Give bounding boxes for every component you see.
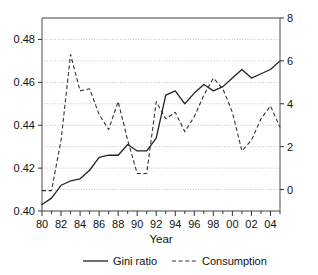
left-axis-tick-label: 0.48 <box>14 33 35 45</box>
x-axis-tick-label: 98 <box>207 218 219 230</box>
x-axis-tick-label: 00 <box>226 218 238 230</box>
x-axis-tick-label: 88 <box>112 218 124 230</box>
right-axis-tick-label: 2 <box>287 141 293 153</box>
left-axis-tick-label: 0.44 <box>14 119 35 131</box>
legend-label-consumption: Consumption <box>202 255 267 267</box>
right-axis: 02468 <box>280 12 293 196</box>
legend-label-gini: Gini ratio <box>113 255 157 267</box>
x-axis-tick-label: 86 <box>93 218 105 230</box>
x-axis-tick-label: 90 <box>131 218 143 230</box>
chart-legend: Gini ratio Consumption <box>83 255 267 267</box>
x-axis-tick-label: 92 <box>150 218 162 230</box>
chart-figure: 0.400.420.440.460.48 02468 8082848688909… <box>0 0 318 275</box>
left-axis-tick-label: 0.46 <box>14 76 35 88</box>
x-axis: 80828486889092949698000204 <box>36 211 280 230</box>
right-axis-tick-label: 8 <box>287 12 293 24</box>
x-axis-tick-label: 84 <box>74 218 86 230</box>
x-axis-tick-label: 96 <box>188 218 200 230</box>
left-axis-tick-label: 0.42 <box>14 162 35 174</box>
x-axis-tick-label: 02 <box>245 218 257 230</box>
left-axis: 0.400.420.440.460.48 <box>14 33 42 217</box>
right-axis-tick-label: 4 <box>287 98 293 110</box>
x-axis-tick-label: 80 <box>36 218 48 230</box>
x-axis-tick-label: 82 <box>55 218 67 230</box>
left-axis-tick-label: 0.40 <box>14 205 35 217</box>
right-axis-tick-label: 6 <box>287 55 293 67</box>
x-axis-title: Year <box>149 233 172 245</box>
x-axis-tick-label: 94 <box>169 218 181 230</box>
right-axis-tick-label: 0 <box>287 184 293 196</box>
dual-axis-line-chart: 0.400.420.440.460.48 02468 8082848688909… <box>0 0 318 275</box>
x-axis-tick-label: 04 <box>264 218 276 230</box>
